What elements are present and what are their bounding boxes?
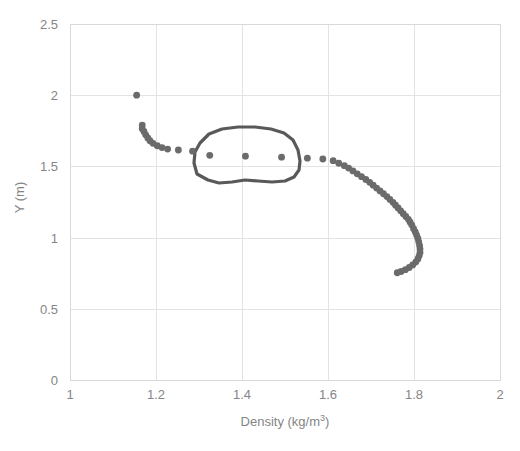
y-tick-label: 2 (18, 88, 58, 103)
x-axis-title-tail: ) (325, 414, 329, 429)
data-point (242, 153, 249, 160)
x-axis-title: Density (kg/m3) (70, 413, 500, 429)
y-tick-label: 0 (18, 373, 58, 388)
chart-canvas (0, 0, 520, 451)
y-tick-label: 0.5 (18, 302, 58, 317)
data-point (164, 146, 171, 153)
x-tick-label: 1 (50, 387, 90, 402)
plot-area-background (70, 24, 500, 380)
data-point (394, 269, 401, 276)
data-point (278, 154, 285, 161)
data-point (304, 155, 311, 162)
x-tick-label: 1.4 (222, 387, 262, 402)
data-point (206, 152, 213, 159)
data-point (133, 92, 140, 99)
x-tick-label: 2 (480, 387, 520, 402)
y-tick-label: 1 (18, 231, 58, 246)
y-axis-title: Y (m) (12, 168, 27, 228)
x-axis-title-base: Density (kg/m (241, 414, 320, 429)
x-tick-label: 1.6 (308, 387, 348, 402)
x-tick-label: 1.8 (394, 387, 434, 402)
scatter-chart: 2.5 2 1.5 1 0.5 0 1 1.2 1.4 1.6 1.8 2 De… (0, 0, 520, 451)
data-point (189, 148, 196, 155)
data-point (175, 147, 182, 154)
data-point (319, 156, 326, 163)
x-tick-label: 1.2 (136, 387, 176, 402)
y-tick-label: 2.5 (18, 17, 58, 32)
